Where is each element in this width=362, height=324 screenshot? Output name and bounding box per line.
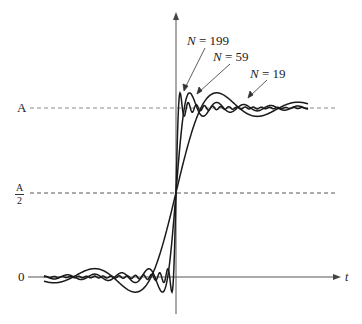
y-label-A: A: [17, 101, 26, 114]
curve-label-var: N: [187, 33, 196, 48]
curve-label-N59: N = 59: [213, 49, 249, 65]
t-axis-arrowhead-icon: [333, 274, 341, 280]
y-label-half-A: A 2: [15, 183, 24, 206]
y-label-half-A-numerator: A: [15, 183, 24, 195]
curve-label-value: = 19: [259, 66, 286, 81]
y-axis-arrowhead-icon: [173, 12, 179, 20]
gibbs-diagram: [0, 0, 362, 324]
t-axis-label: t: [345, 271, 348, 283]
y-label-half-A-denominator: 2: [15, 195, 24, 206]
curve-label-var: N: [250, 66, 259, 81]
curve-label-value: = 199: [196, 33, 229, 48]
curve-label-N19: N = 19: [250, 66, 286, 82]
y-label-zero: 0: [18, 270, 25, 283]
curve-label-N199: N = 199: [187, 33, 229, 49]
curve-label-value: = 59: [222, 49, 249, 64]
curve-label-var: N: [213, 49, 222, 64]
